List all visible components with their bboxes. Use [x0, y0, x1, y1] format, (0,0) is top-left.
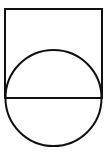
geometry-figure-svg — [0, 0, 107, 153]
figure-canvas — [0, 0, 107, 153]
square-outline — [5, 9, 102, 98]
